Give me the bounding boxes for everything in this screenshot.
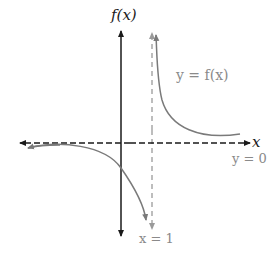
vertical-asymptote-label: x = 1 [139, 232, 174, 245]
x-axis-label: x [252, 135, 260, 150]
curve-label: y = f(x) [176, 68, 229, 82]
y-axis-label: f(x) [111, 8, 137, 23]
curve-left-branch [28, 144, 146, 220]
graph-canvas [0, 0, 275, 255]
curve-right-branch [156, 35, 240, 136]
horizontal-asymptote-label: y = 0 [232, 152, 267, 165]
